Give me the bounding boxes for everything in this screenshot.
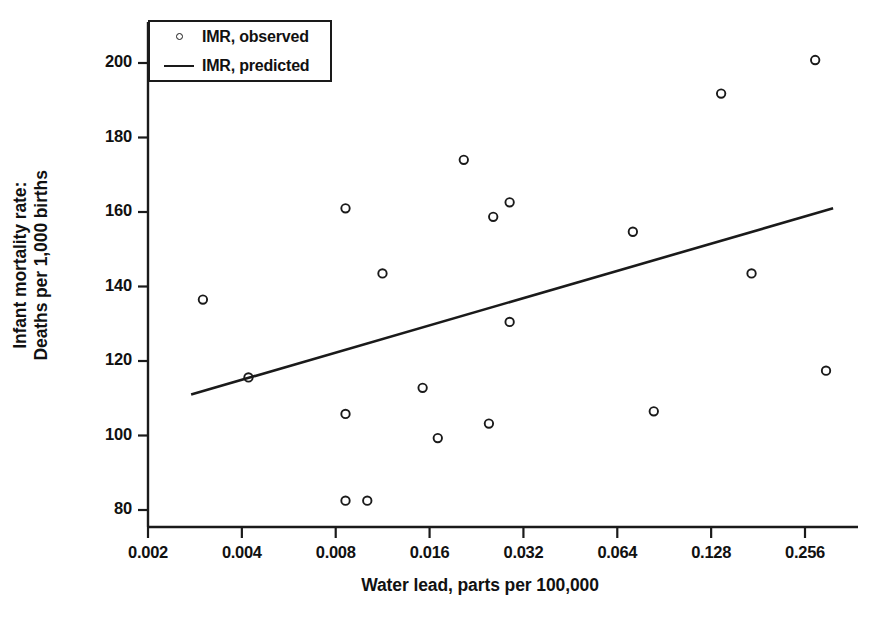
regression-line <box>191 208 833 394</box>
data-point <box>505 318 513 326</box>
y-tick-label: 180 <box>72 127 132 146</box>
y-tick-label: 160 <box>72 201 132 220</box>
y-tick-label: 100 <box>72 425 132 444</box>
x-axis-ticks <box>148 527 805 538</box>
chart-figure: Infant mortality rate: Deaths per 1,000 … <box>0 0 870 618</box>
data-points <box>199 56 831 505</box>
data-point <box>822 366 830 374</box>
data-point <box>629 228 637 236</box>
x-axis-title: Water lead, parts per 100,000 <box>140 575 820 596</box>
data-point <box>489 213 497 221</box>
data-point <box>378 269 386 277</box>
data-point <box>811 56 819 64</box>
data-point <box>418 384 426 392</box>
x-tick-label: 0.002 <box>103 543 193 562</box>
data-point <box>363 496 371 504</box>
data-point <box>199 295 207 303</box>
open-circle-marker-icon <box>156 33 202 40</box>
data-point <box>341 496 349 504</box>
legend-label-predicted: IMR, predicted <box>202 57 309 75</box>
data-point <box>747 269 755 277</box>
x-tick-label: 0.256 <box>760 543 850 562</box>
x-tick-label: 0.004 <box>197 543 287 562</box>
data-point <box>341 410 349 418</box>
x-tick-label: 0.032 <box>478 543 568 562</box>
data-point <box>505 198 513 206</box>
data-point <box>434 434 442 442</box>
legend-item-predicted: IMR, predicted <box>150 51 330 80</box>
data-point <box>485 419 493 427</box>
axes-lines <box>148 22 858 527</box>
y-tick-label: 120 <box>72 350 132 369</box>
solid-line-marker-icon <box>156 65 202 67</box>
x-tick-label: 0.064 <box>572 543 662 562</box>
x-tick-label: 0.016 <box>385 543 475 562</box>
x-tick-label: 0.008 <box>291 543 381 562</box>
y-tick-label: 80 <box>72 499 132 518</box>
y-axis-ticks <box>138 63 148 510</box>
x-tick-label: 0.128 <box>666 543 756 562</box>
plot-area <box>0 0 870 618</box>
legend-label-observed: IMR, observed <box>202 28 309 46</box>
chart-legend: IMR, observed IMR, predicted <box>148 20 332 82</box>
data-point <box>341 204 349 212</box>
y-tick-label: 140 <box>72 276 132 295</box>
y-tick-label: 200 <box>72 52 132 71</box>
data-point <box>460 156 468 164</box>
data-point <box>717 89 725 97</box>
legend-item-observed: IMR, observed <box>150 22 330 51</box>
data-point <box>650 407 658 415</box>
